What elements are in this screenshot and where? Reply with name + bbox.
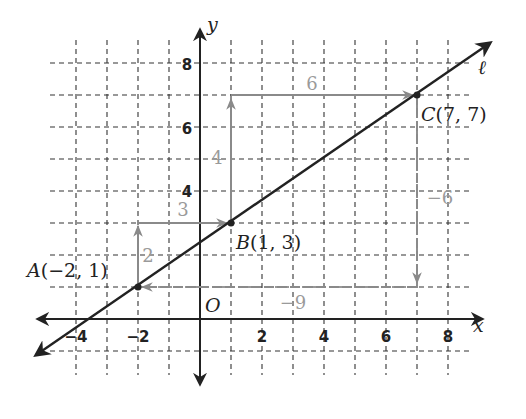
step-label: 3 [177, 199, 188, 220]
x-tick: 8 [443, 328, 453, 346]
point-a-label: A(−2, 1) [25, 259, 108, 281]
line-label: ℓ [478, 56, 486, 78]
grid-lines [50, 40, 472, 375]
point-b [228, 220, 235, 227]
x-tick: 6 [381, 328, 391, 346]
x-tick: −2 [126, 328, 149, 346]
y-axis-label: y [206, 13, 218, 35]
x-tick: 4 [319, 328, 329, 346]
x-tick-labels: −4 −2 2 4 6 8 [64, 328, 453, 346]
origin-label: O [205, 294, 221, 316]
step-label: −6 [427, 187, 454, 208]
point-b-label: B(1, 3) [235, 231, 301, 253]
point-c [414, 92, 421, 99]
step-label: 2 [142, 245, 153, 266]
x-tick: 2 [257, 328, 267, 346]
step-label: −9 [280, 292, 307, 313]
point-a [135, 284, 142, 291]
y-tick-labels: 4 6 8 [182, 56, 192, 201]
x-tick: −4 [64, 328, 87, 346]
line-l [36, 43, 490, 355]
x-axis-label: x [473, 314, 484, 336]
point-c-label: C(7, 7) [421, 103, 487, 125]
step-label: 6 [306, 73, 317, 94]
y-tick: 6 [182, 120, 192, 138]
coordinate-plane: −4 −2 2 4 6 8 4 6 8 y x O 2 3 4 6 −6 −9 … [0, 0, 526, 419]
y-tick: 8 [182, 56, 192, 74]
step-label: 4 [211, 147, 222, 168]
